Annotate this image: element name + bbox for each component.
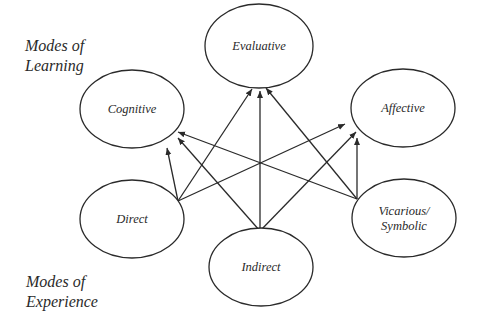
modes-of-experience-line-2: Experience	[26, 292, 98, 312]
modes-of-learning-line-2: Learning	[25, 56, 84, 76]
modes-of-learning-line-1: Modes of	[25, 36, 84, 56]
nodes: EvaluativeCognitiveAffectiveDirectIndire…	[80, 4, 456, 306]
arrow-indirect-to-affective	[260, 132, 356, 231]
modes-of-experience-line-1: Modes of	[26, 272, 98, 292]
arrow-indirect-to-cognitive	[178, 138, 260, 231]
node-cognitive-label: Cognitive	[108, 102, 157, 116]
node-evaluative: Evaluative	[205, 4, 313, 88]
arrows	[167, 88, 357, 231]
node-evaluative-label: Evaluative	[231, 39, 286, 53]
node-vicarious-label: Vicarious/	[378, 204, 431, 218]
node-direct: Direct	[80, 180, 184, 258]
node-affective-label: Affective	[380, 101, 425, 115]
node-direct-label: Direct	[115, 212, 148, 226]
node-vicarious-label: Symbolic	[381, 219, 427, 233]
modes-of-learning-label: Modes of Learning	[25, 36, 84, 76]
node-indirect: Indirect	[209, 228, 313, 306]
node-affective: Affective	[351, 69, 455, 147]
node-indirect-label: Indirect	[240, 260, 281, 274]
node-vicarious: Vicarious/Symbolic	[352, 179, 456, 257]
node-cognitive: Cognitive	[80, 70, 184, 148]
modes-of-experience-label: Modes of Experience	[26, 272, 98, 312]
